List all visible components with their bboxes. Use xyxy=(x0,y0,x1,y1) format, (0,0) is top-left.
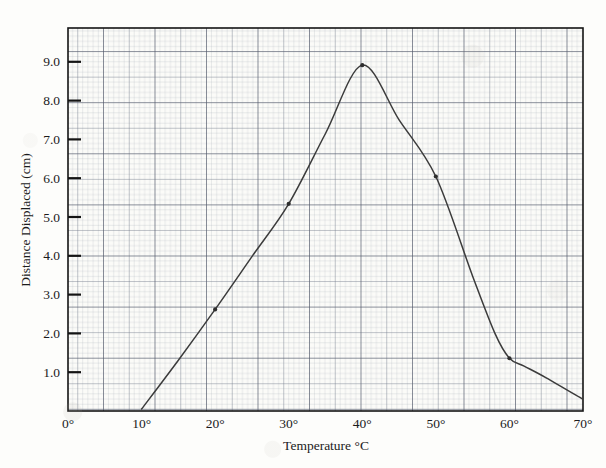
y-tick-label: 7.0 xyxy=(43,132,60,147)
data-point-marker xyxy=(287,202,291,206)
data-point-marker xyxy=(434,174,438,178)
x-axis-tick-labels: 0° 10° 20° 30° 40° 50° 60° 70° xyxy=(62,416,593,431)
data-point-marker xyxy=(360,63,364,67)
y-tick-label: 6.0 xyxy=(43,171,60,186)
x-tick-label: 40° xyxy=(353,416,372,431)
x-axis-title: Temperature °C xyxy=(283,438,369,453)
y-tick-label: 2.0 xyxy=(43,326,60,341)
x-tick-label: 60° xyxy=(500,416,519,431)
y-axis-tick-labels: 1.0 2.0 3.0 4.0 5.0 6.0 7.0 8.0 9.0 xyxy=(43,54,60,379)
y-tick-label: 1.0 xyxy=(43,365,60,380)
x-tick-label: 70° xyxy=(574,416,593,431)
y-tick-label: 5.0 xyxy=(43,210,60,225)
line-chart: 1.0 2.0 3.0 4.0 5.0 6.0 7.0 8.0 9.0 0° 1… xyxy=(0,0,606,468)
y-tick-label: 8.0 xyxy=(43,93,60,108)
x-tick-label: 30° xyxy=(279,416,298,431)
y-tick-label: 9.0 xyxy=(43,54,60,69)
x-tick-label: 50° xyxy=(426,416,445,431)
y-tick-label: 3.0 xyxy=(43,287,60,302)
y-axis-title: Distance Displaced (cm) xyxy=(18,153,33,286)
figure-container: 1.0 2.0 3.0 4.0 5.0 6.0 7.0 8.0 9.0 0° 1… xyxy=(0,0,606,468)
data-point-marker xyxy=(507,356,511,360)
x-tick-label: 20° xyxy=(206,416,225,431)
y-tick-label: 4.0 xyxy=(43,248,60,263)
x-tick-label: 0° xyxy=(62,416,74,431)
x-tick-label: 10° xyxy=(132,416,151,431)
data-point-marker xyxy=(213,307,217,311)
